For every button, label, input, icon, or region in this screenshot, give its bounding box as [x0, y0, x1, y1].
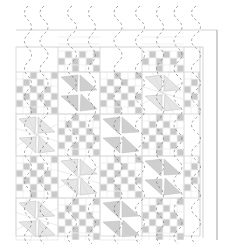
- checker-square: [114, 191, 120, 197]
- checker-square: [191, 79, 197, 85]
- checker-square: [51, 93, 57, 99]
- checker-square: [198, 184, 199, 190]
- checker-square: [121, 93, 127, 99]
- checker-square: [163, 135, 169, 141]
- checker-square: [30, 72, 36, 78]
- triangle: [38, 117, 55, 133]
- checker-square: [149, 51, 155, 57]
- checker-square: [135, 156, 141, 162]
- checker-square: [79, 219, 85, 225]
- pinwheel-block: [100, 114, 142, 156]
- triangle: [38, 220, 55, 237]
- checker-square: [37, 93, 43, 99]
- checker-square: [142, 128, 148, 134]
- checker-square: [23, 177, 29, 183]
- checker-square: [163, 51, 169, 57]
- checker-square: [149, 205, 155, 211]
- checker-square: [198, 156, 199, 162]
- checker-square: [86, 142, 92, 148]
- checker-square: [72, 233, 78, 239]
- checker-square: [163, 219, 169, 225]
- triangle: [19, 137, 36, 153]
- checker-block: [58, 37, 100, 72]
- checker-square: [72, 149, 78, 155]
- checker-square: [142, 212, 148, 218]
- checker-square: [37, 79, 43, 85]
- checker-square: [170, 58, 176, 64]
- checker-square: [128, 86, 134, 92]
- checker-square: [58, 58, 64, 64]
- checker-square: [58, 226, 64, 232]
- checker-square: [93, 149, 99, 155]
- pinwheel-block-light: [57, 155, 101, 199]
- checker-square: [128, 184, 134, 190]
- checker-square: [30, 156, 36, 162]
- checker-square: [23, 163, 29, 169]
- triangle: [61, 75, 78, 92]
- quilting-line: [136, 6, 145, 244]
- checker-square: [191, 163, 197, 169]
- checker-block: [184, 72, 200, 114]
- checker-square: [128, 170, 134, 176]
- checker-square: [184, 86, 190, 92]
- checker-square: [177, 219, 183, 225]
- checker-square: [93, 233, 99, 239]
- checker-square: [51, 177, 57, 183]
- checker-square: [107, 79, 113, 85]
- checker-square: [93, 114, 99, 120]
- checker-square: [114, 170, 120, 176]
- triangle: [80, 94, 97, 111]
- checker-square: [156, 114, 162, 120]
- checker-square: [37, 177, 43, 183]
- checker-square: [128, 100, 134, 106]
- checker-square: [30, 100, 36, 106]
- triangle: [145, 75, 162, 92]
- triangle: [80, 159, 97, 175]
- checker-square: [184, 170, 190, 176]
- checker-square: [100, 184, 106, 190]
- checker-square: [177, 65, 183, 71]
- checker-square: [100, 100, 106, 106]
- checker-block: [58, 114, 100, 156]
- checker-square: [37, 163, 43, 169]
- checker-square: [72, 142, 78, 148]
- checker-square: [163, 205, 169, 211]
- checker-square: [135, 72, 141, 78]
- checker-square: [93, 219, 99, 225]
- checker-square: [51, 191, 57, 197]
- checker-square: [142, 58, 148, 64]
- checker-square: [65, 135, 71, 141]
- checker-square: [44, 170, 50, 176]
- checker-block: [100, 156, 142, 198]
- checker-square: [198, 191, 199, 197]
- checker-square: [163, 121, 169, 127]
- checker-square: [51, 156, 57, 162]
- checker-square: [107, 93, 113, 99]
- checker-square: [30, 86, 36, 92]
- triangle: [19, 117, 36, 134]
- checker-block: [142, 114, 184, 156]
- checker-square: [72, 212, 78, 218]
- checker-square: [79, 135, 85, 141]
- checker-block: [142, 198, 184, 240]
- triangle: [61, 95, 78, 111]
- checker-square: [100, 170, 106, 176]
- checker-square: [23, 79, 29, 85]
- checker-square: [198, 100, 199, 106]
- triangle: [61, 159, 78, 176]
- checker-square: [65, 205, 71, 211]
- checker-square: [86, 58, 92, 64]
- pinwheel-block: [58, 72, 100, 114]
- checker-square: [23, 93, 29, 99]
- triangle: [122, 117, 139, 133]
- checker-square: [58, 212, 64, 218]
- triangle: [164, 94, 181, 111]
- checker-square: [58, 128, 64, 134]
- quilting-line: [174, 6, 182, 244]
- checker-square: [177, 51, 183, 57]
- checker-square: [58, 142, 64, 148]
- pinwheel-block-light: [15, 197, 59, 241]
- checker-square: [149, 135, 155, 141]
- checker-square: [107, 163, 113, 169]
- checker-square: [114, 86, 120, 92]
